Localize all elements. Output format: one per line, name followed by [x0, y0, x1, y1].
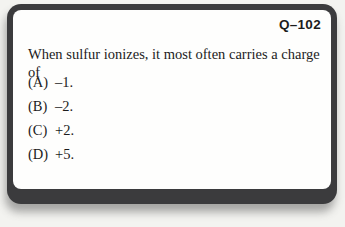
card-number-label: Q–102 [279, 17, 321, 32]
options-list: (A) –1. (B) –2. (C) +2. (D) +5. [28, 70, 321, 166]
option-row-d: (D) +5. [28, 142, 321, 166]
option-row-c: (C) +2. [28, 118, 321, 142]
card-face: Q–102 When sulfur ionizes, it most often… [13, 10, 331, 189]
option-value-a: –1. [55, 70, 321, 94]
option-letter-d: (D) [28, 142, 55, 166]
option-value-b: –2. [55, 94, 321, 118]
option-letter-a: (A) [28, 70, 55, 94]
flashcard: Q–102 When sulfur ionizes, it most often… [7, 4, 337, 204]
option-row-a: (A) –1. [28, 70, 321, 94]
option-row-b: (B) –2. [28, 94, 321, 118]
page-background: Q–102 When sulfur ionizes, it most often… [0, 0, 345, 227]
option-value-c: +2. [55, 118, 321, 142]
option-letter-c: (C) [28, 118, 55, 142]
option-letter-b: (B) [28, 94, 55, 118]
option-value-d: +5. [55, 142, 321, 166]
